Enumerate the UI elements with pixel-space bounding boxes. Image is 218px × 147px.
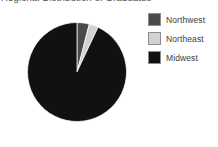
legend-label-northwest: Northwest — [166, 15, 205, 25]
legend-swatch-northwest — [148, 13, 161, 26]
legend-label-northeast: Northeast — [166, 34, 204, 44]
legend-item-midwest[interactable]: Midwest — [148, 48, 218, 67]
legend-item-northwest[interactable]: Northwest — [148, 10, 218, 29]
pie-chart-figure: Regional Distribution of Graduates North… — [0, 0, 218, 147]
pie-slices — [28, 23, 127, 122]
pie-plot-area — [0, 0, 146, 147]
legend-swatch-northeast — [148, 32, 161, 45]
chart-legend: Northwest Northeast Midwest — [148, 10, 218, 67]
legend-item-northeast[interactable]: Northeast — [148, 29, 218, 48]
pie-slice-midwest[interactable] — [28, 23, 127, 122]
pie-svg — [0, 0, 146, 147]
legend-swatch-midwest — [148, 51, 161, 64]
legend-label-midwest: Midwest — [166, 53, 198, 63]
